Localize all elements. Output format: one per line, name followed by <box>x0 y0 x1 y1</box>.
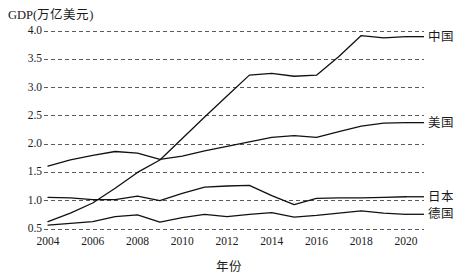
x-tick-label-2018: 2018 <box>350 236 373 248</box>
x-tick-label-2008: 2008 <box>126 236 149 248</box>
series-label-日本: 日本 <box>428 191 454 204</box>
series-line-3 <box>48 211 406 225</box>
series-label-美国: 美国 <box>428 116 454 129</box>
series-label-德国: 德国 <box>428 208 454 221</box>
x-tick-label-2006: 2006 <box>81 236 104 248</box>
series-line-2 <box>48 185 406 204</box>
x-axis-title: 年份 <box>0 256 457 275</box>
x-tick-label-2020: 2020 <box>395 236 418 248</box>
gdp-line-chart: GDP(万亿美元) 4.03.53.02.52.01.51.00.5 20042… <box>0 0 457 278</box>
x-tick-label-2012: 2012 <box>216 236 239 248</box>
series-label-中国: 中国 <box>428 30 454 43</box>
x-tick-label-2016: 2016 <box>305 236 328 248</box>
x-tick-label-2004: 2004 <box>37 236 60 248</box>
x-tick-label-2014: 2014 <box>260 236 283 248</box>
x-tick-label-2010: 2010 <box>171 236 194 248</box>
